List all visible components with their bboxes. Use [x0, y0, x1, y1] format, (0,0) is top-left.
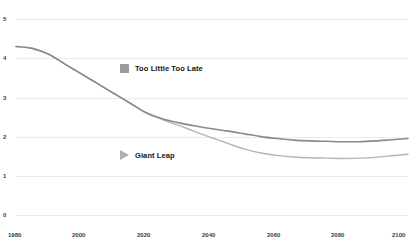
legend-label-giant-leap: Giant Leap [135, 151, 175, 160]
legend-item-giant-leap: Giant Leap [120, 150, 175, 160]
series-line-too-little-too-late [16, 46, 408, 141]
legend-label-too-little-too-late: Too Little Too Late [135, 64, 203, 73]
legend-item-too-little-too-late: Too Little Too Late [120, 64, 203, 73]
square-marker-icon [120, 64, 129, 73]
plot-area: 5 4 3 2 1 0 1980 2000 2020 2040 2060 208… [0, 0, 413, 251]
series-lines [0, 0, 413, 251]
triangle-marker-icon [120, 150, 129, 160]
line-chart: 5 4 3 2 1 0 1980 2000 2020 2040 2060 208… [0, 0, 413, 251]
